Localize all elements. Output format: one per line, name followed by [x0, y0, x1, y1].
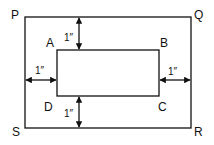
label-B: B — [160, 36, 168, 50]
label-D: D — [44, 100, 53, 114]
label-A: A — [46, 36, 54, 50]
frame-diagram: P Q R S A B C D 1″ 1″ 1″ 1″ — [0, 0, 214, 145]
label-S: S — [12, 125, 20, 139]
top-margin-label: 1″ — [64, 32, 74, 43]
bottom-margin-label: 1″ — [64, 108, 74, 119]
right-margin-label: 1″ — [168, 66, 178, 77]
label-R: R — [194, 125, 203, 139]
label-Q: Q — [194, 8, 203, 22]
left-margin-label: 1″ — [35, 65, 45, 76]
label-P: P — [11, 8, 19, 22]
inner-rectangle — [57, 50, 159, 96]
label-C: C — [158, 100, 167, 114]
